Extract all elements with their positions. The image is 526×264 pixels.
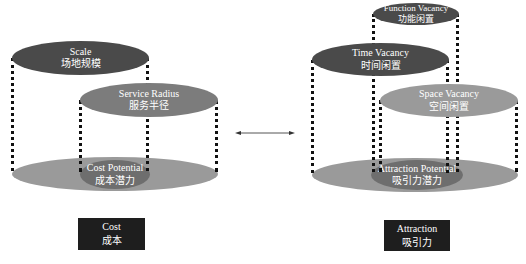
function-vacancy-label-cn: 功能闲置 bbox=[398, 14, 434, 25]
attraction-box-label-en: Attraction bbox=[397, 222, 438, 236]
attraction-potential-label-cn: 吸引力潜力 bbox=[392, 175, 442, 188]
time-vacancy-label-cn: 时间闲置 bbox=[361, 60, 401, 73]
space-right-edge bbox=[515, 100, 518, 172]
time-left-edge bbox=[311, 60, 314, 173]
attraction-potential-label-en: Attraction Potential bbox=[378, 163, 457, 176]
space-left-edge bbox=[379, 100, 382, 172]
function-vacancy-ellipse: Function Vacancy 功能闲置 bbox=[373, 3, 459, 25]
time-vacancy-ellipse: Time Vacancy 时间闲置 bbox=[312, 43, 449, 76]
space-vacancy-ellipse: Space Vacancy 空间闲置 bbox=[380, 84, 518, 117]
space-vacancy-label-en: Space Vacancy bbox=[419, 88, 479, 101]
time-vacancy-label-en: Time Vacancy bbox=[352, 47, 409, 60]
function-vacancy-label-en: Function Vacancy bbox=[384, 3, 449, 14]
space-vacancy-label-cn: 空间闲置 bbox=[429, 101, 469, 114]
attraction-potential-ellipse: Attraction Potential 吸引力潜力 bbox=[371, 160, 463, 190]
attraction-box-label-cn: 吸引力 bbox=[402, 236, 432, 250]
function-left-edge bbox=[372, 14, 375, 172]
attraction-box: Attraction 吸引力 bbox=[384, 220, 450, 251]
